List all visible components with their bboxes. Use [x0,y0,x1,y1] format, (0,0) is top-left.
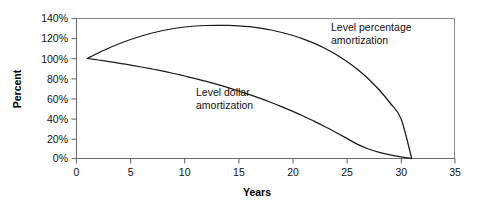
x-tick-label: 0 [74,166,80,178]
y-axis-ticks: 140% 120% 100% 80% 60% 40% 20% 0% [41,12,76,164]
y-tick-label: 120% [41,32,68,44]
amortization-line-chart: 140% 120% 100% 80% 60% 40% 20% 0% 0 5 10 [0,0,487,207]
y-tick-label: 0% [53,152,68,164]
x-tick-label: 5 [128,166,134,178]
x-axis-ticks: 0 5 10 15 20 25 30 35 [74,159,461,179]
y-tick-label: 20% [47,133,68,145]
chart-figure: 140% 120% 100% 80% 60% 40% 20% 0% 0 5 10 [0,0,487,207]
annotation-line-1: Level percentage [331,21,412,33]
annotation-line-2: amortization [196,99,253,111]
x-tick-label: 15 [233,166,245,178]
annotation-line-1: Level dollar [196,86,250,98]
y-tick-label: 80% [47,73,68,85]
x-tick-label: 35 [449,166,461,178]
y-tick-label: 100% [41,53,68,65]
y-tick-label: 140% [41,12,68,24]
annotation-line-2: amortization [331,34,388,46]
x-tick-label: 20 [287,166,299,178]
y-tick-label: 60% [47,93,68,105]
level-dollar-annotation: Level dollar amortization [196,86,253,111]
y-tick-label: 40% [47,113,68,125]
level-percentage-annotation: Level percentage amortization [331,21,412,46]
x-axis-title: Years [243,186,271,198]
y-axis-title: Percent [11,69,23,108]
x-tick-label: 10 [179,166,191,178]
x-tick-label: 25 [341,166,353,178]
x-tick-label: 30 [395,166,407,178]
